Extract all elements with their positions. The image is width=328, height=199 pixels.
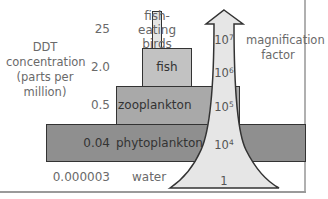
concentration-phytoplankton: 0.04 [70, 136, 110, 150]
label-phytoplankton: phytoplankton [116, 136, 203, 150]
label-zooplankton: zooplankton [118, 98, 192, 112]
label-fish-eating-birds: fish-eating birds [128, 9, 186, 51]
magnification-fish: 106 [204, 66, 244, 80]
magnification-zooplankton: 105 [204, 100, 244, 114]
concentration-water: 0.000003 [46, 170, 110, 184]
magnification-phytoplankton: 104 [204, 138, 244, 152]
concentration-fish: 2.0 [80, 60, 110, 74]
magnification-axis-title: magnification factor [246, 33, 310, 63]
concentration-birds: 25 [80, 22, 110, 36]
magnification-birds: 107 [204, 33, 244, 47]
concentration-zooplankton: 0.5 [80, 98, 110, 112]
magnification-water: 1 [204, 174, 244, 188]
label-fish: fish [145, 60, 189, 74]
label-water: water [132, 170, 166, 184]
